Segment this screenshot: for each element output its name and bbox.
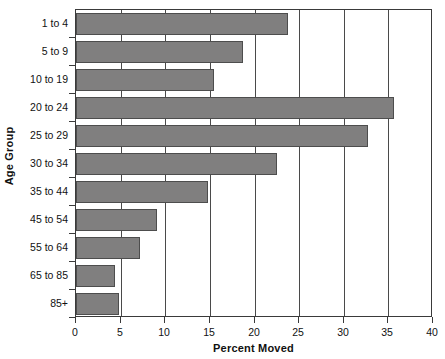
y-axis-tick-label: 20 to 24 bbox=[6, 101, 68, 113]
bar bbox=[76, 125, 368, 147]
bars-layer bbox=[76, 10, 431, 316]
x-axis-tick-label: 20 bbox=[234, 326, 274, 339]
x-axis-tick-label: 40 bbox=[412, 326, 445, 339]
x-axis-tick-mark bbox=[75, 317, 76, 323]
x-axis-tick-mark bbox=[387, 317, 388, 323]
x-axis-tick-mark bbox=[164, 317, 165, 323]
y-axis-tick-label: 30 to 34 bbox=[6, 157, 68, 169]
x-axis-title: Percent Moved bbox=[75, 341, 432, 355]
x-axis-tick-mark bbox=[298, 317, 299, 323]
x-axis-tick-mark bbox=[209, 317, 210, 323]
x-axis-tick-label: 25 bbox=[278, 326, 318, 339]
y-axis-tick-label: 45 to 54 bbox=[6, 213, 68, 225]
bar bbox=[76, 153, 277, 175]
x-axis-tick-mark bbox=[432, 317, 433, 323]
bar bbox=[76, 265, 115, 287]
y-axis-tick-label: 35 to 44 bbox=[6, 185, 68, 197]
x-axis-tick-label: 10 bbox=[144, 326, 184, 339]
x-axis-tick-label: 5 bbox=[100, 326, 140, 339]
y-axis-tick-label: 65 to 85 bbox=[6, 269, 68, 281]
y-axis-tick-labels: 1 to 45 to 910 to 1920 to 2425 to 2930 t… bbox=[6, 9, 68, 317]
x-axis-tick-label: 15 bbox=[189, 326, 229, 339]
x-axis-tick-mark bbox=[254, 317, 255, 323]
bar bbox=[76, 293, 119, 315]
bar-chart: Age Group 1 to 45 to 910 to 1920 to 2425… bbox=[0, 0, 445, 359]
x-axis-tick-label: 30 bbox=[323, 326, 363, 339]
x-axis-tick-label: 35 bbox=[367, 326, 407, 339]
bar bbox=[76, 41, 243, 63]
y-axis-tick-label: 85+ bbox=[6, 297, 68, 309]
bar bbox=[76, 97, 394, 119]
y-axis-tick-label: 10 to 19 bbox=[6, 73, 68, 85]
y-axis-tick-label: 25 to 29 bbox=[6, 129, 68, 141]
plot-area bbox=[75, 9, 432, 317]
y-axis-tick-label: 55 to 64 bbox=[6, 241, 68, 253]
x-axis-tick-mark bbox=[120, 317, 121, 323]
bar bbox=[76, 69, 214, 91]
x-axis-tick-mark bbox=[343, 317, 344, 323]
x-axis-tick-label: 0 bbox=[55, 326, 95, 339]
bar bbox=[76, 13, 288, 35]
y-axis-tick-label: 1 to 4 bbox=[6, 17, 68, 29]
y-axis-tick-label: 5 to 9 bbox=[6, 45, 68, 57]
bar bbox=[76, 181, 208, 203]
bar bbox=[76, 237, 140, 259]
bar bbox=[76, 209, 157, 231]
